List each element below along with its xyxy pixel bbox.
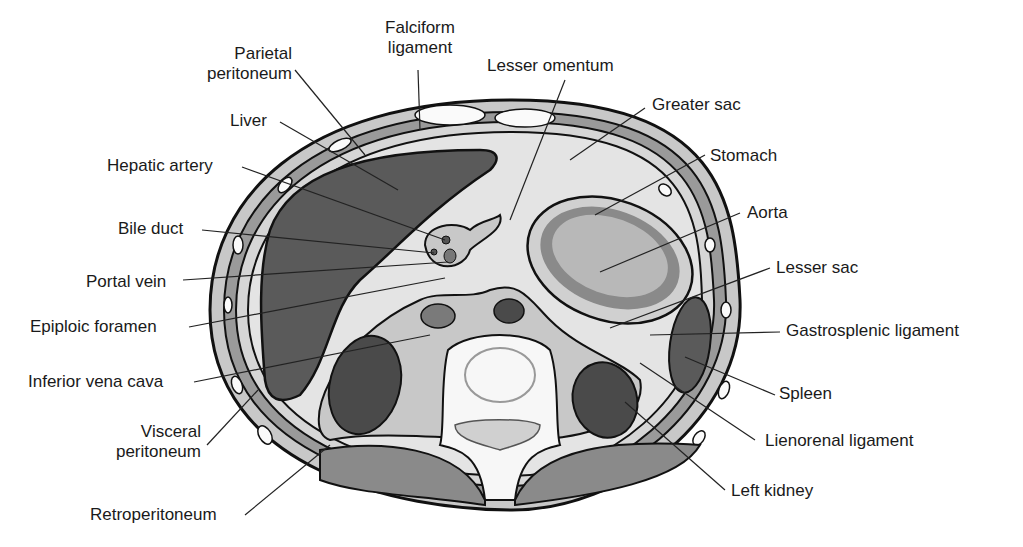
label-gastrosplenic-ligament: Gastrosplenic ligament <box>786 321 959 341</box>
label-visceral-peritoneum: Visceral peritoneum <box>100 422 201 462</box>
label-aorta: Aorta <box>747 203 788 223</box>
label-epiploic-foramen: Epiploic foramen <box>30 317 157 337</box>
label-lienorenal-ligament: Lienorenal ligament <box>765 431 913 451</box>
label-left-kidney: Left kidney <box>731 481 813 501</box>
label-retroperitoneum: Retroperitoneum <box>90 505 217 525</box>
label-falciform-ligament: Falciform ligament <box>370 18 470 58</box>
label-greater-sac: Greater sac <box>652 95 741 115</box>
label-hepatic-artery: Hepatic artery <box>107 156 213 176</box>
label-bile-duct: Bile duct <box>118 219 183 239</box>
anatomy-figure: Parietal peritoneum Falciform ligament L… <box>0 0 1023 547</box>
label-stomach: Stomach <box>710 146 777 166</box>
label-spleen: Spleen <box>779 384 832 404</box>
label-portal-vein: Portal vein <box>86 272 166 292</box>
label-parietal-peritoneum: Parietal peritoneum <box>195 44 292 84</box>
label-inferior-vena-cava: Inferior vena cava <box>28 372 163 392</box>
label-liver: Liver <box>230 111 267 131</box>
label-lesser-omentum: Lesser omentum <box>487 56 614 76</box>
label-lesser-sac: Lesser sac <box>776 258 858 278</box>
